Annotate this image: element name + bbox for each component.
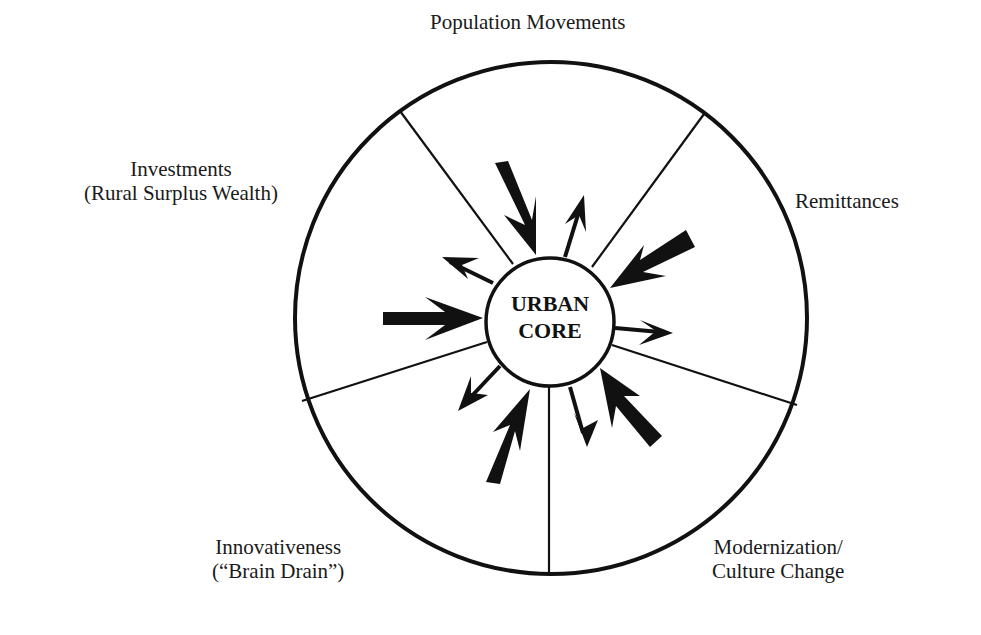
thick-arrow-icon (610, 230, 695, 288)
thick-arrow-icon (600, 368, 662, 447)
label-population-movements: Population Movements (430, 10, 625, 34)
label-innovativeness-line1: Innovativeness (212, 535, 344, 559)
label-modernization: Modernization/ Culture Change (712, 535, 844, 583)
label-investments-line1: Investments (50, 157, 312, 181)
urban-core-line1: URBAN (486, 290, 614, 317)
label-investments: Investments (Rural Surplus Wealth) (50, 157, 312, 205)
label-remittances: Remittances (795, 189, 899, 213)
label-investments-line2: (Rural Surplus Wealth) (50, 181, 312, 205)
label-modernization-line2: Culture Change (712, 559, 844, 583)
label-innovativeness-line2: (“Brain Drain”) (212, 559, 344, 583)
urban-core-label: URBAN CORE (486, 290, 614, 344)
thick-arrow-icon (495, 161, 536, 255)
thick-arrow-icon (486, 389, 530, 484)
label-modernization-line1: Modernization/ (712, 535, 844, 559)
label-innovativeness: Innovativeness (“Brain Drain”) (212, 535, 344, 583)
urban-core-line2: CORE (486, 317, 614, 344)
thick-arrow-icon (383, 297, 483, 340)
arrowhead-icon (442, 257, 479, 279)
